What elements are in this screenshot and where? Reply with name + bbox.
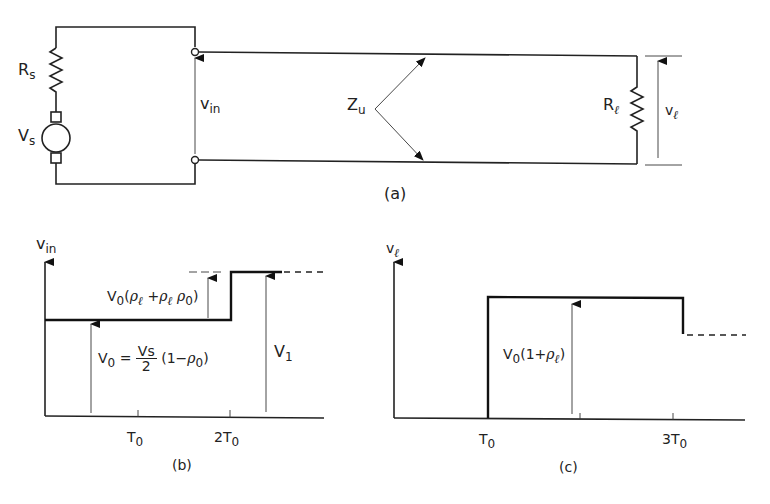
plot-b-x-axis	[45, 416, 324, 418]
plot-c	[394, 262, 746, 420]
source-terminal-top	[51, 112, 61, 122]
caption-c: (c)	[559, 460, 578, 474]
load-resistor	[631, 56, 643, 164]
plot-b-tick-2t0: 2T0	[214, 430, 239, 444]
plot-b-v0-formula: V0 = Vs2 (1−ρ0)	[98, 344, 209, 373]
source-terminal-bottom	[51, 153, 61, 163]
source-resistor-label: Rs	[18, 62, 35, 78]
input-terminal-bottom	[192, 157, 199, 164]
source-circuit	[42, 27, 199, 184]
plot-c-tick-t0: T0	[479, 432, 495, 446]
caption-b: (b)	[172, 458, 192, 472]
plot-b	[45, 262, 324, 418]
voltage-source	[42, 124, 70, 152]
plot-c-level-label: V0(1+ρℓ)	[503, 347, 565, 361]
source-voltage-label: Vs	[18, 128, 35, 144]
figure-canvas	[0, 0, 770, 504]
vl-label: vℓ	[665, 103, 678, 117]
zu-arrow-top	[375, 58, 425, 109]
zu-arrow-bottom	[375, 109, 423, 160]
plot-b-v1-label: V1	[274, 344, 293, 360]
load-resistor-label: Rℓ	[603, 97, 619, 113]
plot-b-step-label: V0(ρℓ +ρℓ ρ0)	[107, 289, 198, 303]
transmission-line	[199, 52, 637, 164]
zu-label: Zu	[347, 97, 366, 113]
vin-label: vin	[200, 96, 220, 112]
input-terminal-top	[192, 49, 199, 56]
plot-b-y-label: vin	[36, 236, 56, 252]
plot-c-tick-3t0: 3T0	[662, 432, 687, 446]
caption-a: (a)	[384, 186, 406, 202]
plot-c-y-label: vℓ	[386, 241, 399, 255]
plot-b-tick-t0: T0	[127, 430, 143, 444]
plot-c-x-axis	[394, 418, 745, 420]
v0-fraction: Vs2	[136, 344, 157, 373]
source-resistor	[50, 48, 62, 112]
